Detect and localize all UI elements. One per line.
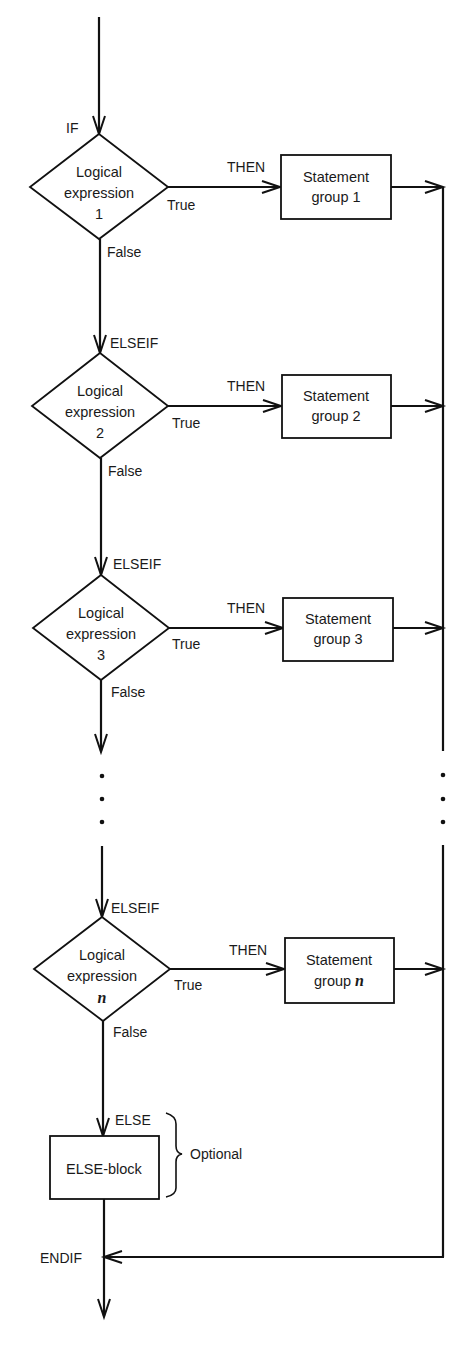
false-label: False <box>111 684 145 700</box>
elseif-label: ELSEIF <box>111 900 159 916</box>
condition-2-line2: expression <box>65 404 135 420</box>
branch-3: Logical expression 3 ELSEIF THEN True Fa… <box>33 556 443 700</box>
statement-2-line1: Statement <box>303 388 369 404</box>
ellipsis-right <box>441 773 446 825</box>
condition-1-line1: Logical <box>76 164 122 180</box>
false-label: False <box>113 1024 147 1040</box>
elseif-label: ELSEIF <box>110 335 158 351</box>
condition-n-index: n <box>98 989 107 1006</box>
condition-2-index: 2 <box>96 425 104 441</box>
false-label: False <box>108 463 142 479</box>
optional-label: Optional <box>190 1146 242 1162</box>
statement-n-line2: group n <box>314 972 364 989</box>
branch-2: Logical expression 2 ELSEIF THEN True Fa… <box>32 335 443 479</box>
brace-icon <box>166 1113 182 1197</box>
then-label: THEN <box>227 600 265 616</box>
if-label: IF <box>66 120 78 136</box>
then-label: THEN <box>229 942 267 958</box>
ellipsis-left <box>100 774 105 825</box>
if-elseif-flowchart: Logical expression 1 IF THEN True False … <box>0 0 474 1371</box>
condition-1-index: 1 <box>95 206 103 222</box>
condition-3-line1: Logical <box>78 605 124 621</box>
else-block-label: ELSE-block <box>66 1161 143 1177</box>
statement-3-line1: Statement <box>305 611 371 627</box>
statement-1-line2: group 1 <box>311 189 360 205</box>
statement-box-n <box>285 938 394 1003</box>
then-label: THEN <box>227 159 265 175</box>
statement-box-3 <box>283 598 393 661</box>
statement-box-2 <box>282 375 391 438</box>
condition-3-line2: expression <box>66 626 136 642</box>
condition-1-line2: expression <box>64 185 134 201</box>
else-section: ELSE ELSE-block Optional <box>50 1112 242 1199</box>
true-label: True <box>167 197 195 213</box>
endif-label: ENDIF <box>40 1250 82 1266</box>
statement-box-1 <box>281 155 391 219</box>
condition-n-line2: expression <box>67 968 137 984</box>
true-label: True <box>174 977 202 993</box>
condition-n-line1: Logical <box>79 947 125 963</box>
statement-2-line2: group 2 <box>311 408 360 424</box>
statement-1-line1: Statement <box>303 169 369 185</box>
branch-1: Logical expression 1 IF THEN True False … <box>30 120 443 260</box>
then-label: THEN <box>227 378 265 394</box>
else-label: ELSE <box>115 1112 151 1128</box>
true-label: True <box>172 636 200 652</box>
condition-3-index: 3 <box>97 647 105 663</box>
true-label: True <box>172 415 200 431</box>
condition-2-line1: Logical <box>77 383 123 399</box>
elseif-label: ELSEIF <box>113 556 161 572</box>
false-label: False <box>107 244 141 260</box>
branch-n: Logical expression n ELSEIF THEN True Fa… <box>34 900 443 1040</box>
statement-3-line2: group 3 <box>313 631 362 647</box>
statement-n-line1: Statement <box>306 952 372 968</box>
